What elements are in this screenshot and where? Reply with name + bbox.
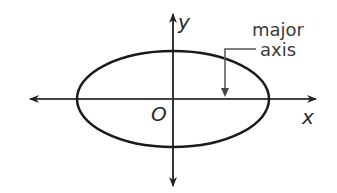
major-axis-leader-arrowhead [221,88,229,97]
annotation-line-2: axis [252,40,304,60]
annotation-line-1: major [252,20,304,40]
major-axis-annotation: major axis [252,20,304,60]
x-axis-label: x [302,107,314,127]
origin-label: O [151,104,167,124]
ellipse-diagram: y x O major axis [0,0,337,193]
y-axis-label: y [178,12,190,32]
